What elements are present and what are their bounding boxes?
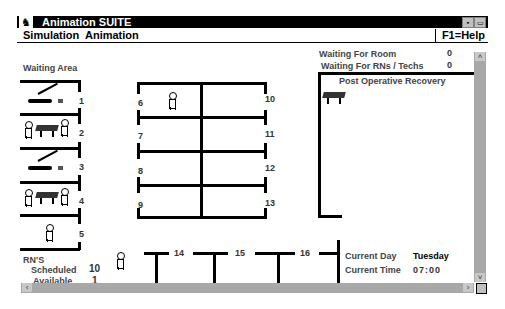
room-number: 10 — [265, 94, 275, 104]
room-number: 8 — [138, 166, 143, 176]
menu-bar: Simulation Animation F1=Help — [17, 29, 488, 43]
room-wall — [264, 143, 267, 159]
room-wall — [137, 216, 267, 219]
gurney-icon[interactable] — [321, 90, 349, 104]
gurney-icon[interactable] — [34, 190, 62, 204]
room-wall — [193, 252, 228, 255]
room-number: 14 — [174, 248, 184, 258]
staff-icon[interactable] — [45, 224, 53, 242]
room-wall — [137, 116, 267, 119]
bay-divider — [78, 142, 81, 158]
waiting-room-label: Waiting For Room — [319, 49, 396, 59]
current-time-value: 07:00 — [413, 265, 441, 275]
current-time-label: Current Time — [345, 265, 401, 275]
staff-icon[interactable] — [116, 252, 124, 270]
room-wall — [137, 184, 267, 187]
window-title: Animation SUITE — [42, 16, 131, 28]
bay-divider — [20, 147, 80, 150]
room-wall — [155, 252, 158, 284]
help-hint[interactable]: F1=Help — [435, 29, 488, 42]
staff-icon[interactable] — [168, 92, 176, 110]
patient-lying-icon[interactable] — [28, 158, 64, 172]
room-wall — [319, 252, 337, 255]
room-number: 11 — [265, 129, 275, 139]
room-number: 16 — [300, 248, 310, 258]
room-wall — [255, 252, 295, 255]
waiting-rns-label: Waiting For RNs / Techs — [321, 61, 424, 71]
room-wall — [137, 143, 140, 159]
bay-divider — [20, 214, 80, 217]
room-wall — [213, 252, 216, 284]
bay-number: 1 — [79, 96, 84, 106]
gurney-icon[interactable] — [34, 123, 62, 137]
scroll-down-icon[interactable]: ˅ — [475, 273, 485, 282]
bay-divider — [78, 175, 81, 191]
bay-divider — [78, 208, 81, 224]
scroll-up-icon[interactable]: ˄ — [475, 52, 485, 61]
room-wall — [264, 177, 267, 193]
bay-number: 2 — [79, 128, 84, 138]
rns-label: RN'S — [23, 255, 44, 265]
room-wall — [264, 110, 267, 125]
patient-lying-icon[interactable] — [28, 91, 64, 105]
app-logo-icon[interactable]: ♞ — [19, 16, 33, 28]
bay-divider — [20, 248, 80, 251]
recovery-wall — [318, 215, 342, 218]
bay-number: 5 — [79, 229, 84, 239]
horizontal-scrollbar[interactable]: ‹ › — [21, 283, 474, 293]
room-wall — [137, 82, 140, 94]
staff-icon[interactable] — [60, 119, 68, 137]
minimize-button[interactable]: ▪ — [462, 17, 474, 28]
bay-divider — [78, 242, 81, 250]
scheduled-label: Scheduled — [31, 265, 77, 275]
vertical-scrollbar[interactable]: ˄ ˅ — [474, 52, 486, 282]
maximize-button[interactable]: ▭ — [474, 17, 486, 28]
room-number: 6 — [138, 98, 143, 108]
bay-number: 3 — [79, 162, 84, 172]
staff-icon[interactable] — [24, 121, 32, 139]
menu-simulation[interactable]: Simulation — [23, 29, 79, 42]
bay-divider — [20, 80, 80, 83]
staff-icon[interactable] — [60, 188, 68, 206]
recovery-label: Post Operative Recovery — [339, 76, 446, 86]
waiting-room-value: 0 — [447, 48, 452, 58]
room-number: 13 — [265, 198, 275, 208]
bay-number: 4 — [79, 196, 84, 206]
room-wall — [277, 252, 280, 284]
scheduled-value: 10 — [89, 264, 100, 274]
room-number: 9 — [138, 200, 143, 210]
menu-animation[interactable]: Animation — [85, 29, 139, 42]
room-number: 7 — [138, 131, 143, 141]
current-day-value: Tuesday — [413, 251, 449, 261]
bay-divider — [78, 108, 81, 124]
scroll-right-icon[interactable]: › — [463, 283, 473, 292]
room-wall — [137, 110, 140, 125]
room-number: 12 — [265, 163, 275, 173]
room-wall — [137, 150, 267, 153]
room-wall — [264, 208, 267, 218]
resize-corner[interactable] — [476, 283, 487, 294]
room-wall — [137, 177, 140, 193]
scroll-left-icon[interactable]: ‹ — [22, 283, 32, 292]
bay-divider — [78, 80, 81, 92]
waiting-area-label: Waiting Area — [23, 63, 77, 73]
room-wall — [264, 82, 267, 94]
room-wall — [337, 240, 340, 284]
room-number: 15 — [235, 248, 245, 258]
current-day-label: Current Day — [345, 251, 397, 261]
waiting-rns-value: 0 — [447, 60, 452, 70]
staff-icon[interactable] — [24, 189, 32, 207]
recovery-wall — [318, 72, 476, 75]
bay-divider — [20, 181, 80, 184]
bay-divider — [20, 113, 80, 116]
